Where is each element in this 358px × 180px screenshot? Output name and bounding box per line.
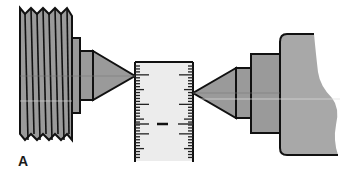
figure-label: A [18, 153, 28, 169]
tailstock-quill [251, 54, 280, 133]
tailstock-body [280, 34, 338, 155]
threaded-spindle-nose [20, 8, 72, 140]
diagram-svg [0, 0, 358, 180]
collar [72, 38, 80, 113]
headstock-center-point [93, 51, 135, 100]
scale [135, 62, 193, 162]
diagram: A [0, 0, 358, 180]
headstock-center-shank [80, 51, 93, 100]
